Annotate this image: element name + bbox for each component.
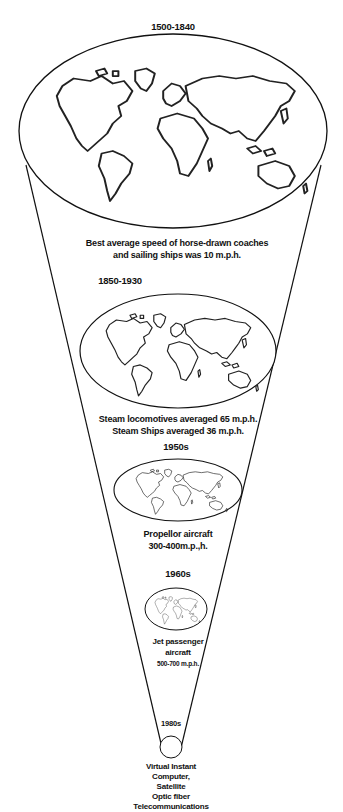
- caption-1960s: Jet passenger aircraft 500-700 m.p.h.: [133, 636, 223, 669]
- era-label-1960s: 1960s: [143, 568, 213, 580]
- caption-line: Optic fiber: [111, 792, 231, 802]
- caption-1500-1840: Best average speed of horse-drawn coache…: [72, 237, 282, 261]
- caption-line: aircraft: [133, 647, 223, 658]
- caption-line: Computer,: [111, 772, 231, 782]
- caption-line: Best average speed of horse-drawn coache…: [72, 237, 282, 249]
- caption-1980s: Virtual Instant Computer, Satellite Opti…: [111, 762, 231, 812]
- world-ellipse-1960s: [145, 588, 207, 630]
- world-circle-1980s: [160, 736, 182, 758]
- era-label-1500-1840: 1500-1840: [123, 21, 223, 33]
- caption-1850-1930: Steam locomotives averaged 65 m.p.h. Ste…: [93, 413, 263, 437]
- world-ellipse-1500-1840: [19, 34, 327, 228]
- caption-line: Satellite: [111, 782, 231, 792]
- caption-line: 500-700 m.p.h.: [133, 658, 223, 669]
- era-label-1980s: 1980s: [146, 718, 196, 730]
- world-ellipse-1850-1930: [80, 294, 276, 408]
- caption-line: Steam Ships averaged 36 m.p.h.: [93, 425, 263, 437]
- era-label-1950s: 1950s: [141, 441, 211, 453]
- caption-line: Steam locomotives averaged 65 m.p.h.: [93, 413, 263, 425]
- caption-line: Jet passenger: [133, 636, 223, 647]
- caption-line: Propellor aircraft: [128, 528, 228, 540]
- world-ellipse-1950s: [114, 459, 242, 521]
- caption-line: Virtual Instant: [111, 762, 231, 772]
- caption-line: and sailing ships was 10 m.p.h.: [72, 249, 282, 261]
- caption-line: Telecommunications: [111, 802, 231, 812]
- caption-line: 300-400m.p.,h.: [128, 540, 228, 552]
- caption-1950s: Propellor aircraft 300-400m.p.,h.: [128, 528, 228, 552]
- era-label-1850-1930: 1850-1930: [70, 275, 170, 287]
